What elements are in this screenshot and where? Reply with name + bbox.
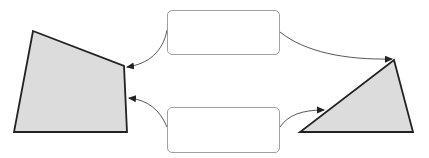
arrow-bottom-box-to-quad: [129, 98, 167, 127]
bottom-box: [167, 107, 280, 153]
arrow-top-box-to-triangle: [280, 32, 392, 59]
top-box: [167, 10, 280, 55]
left-quadrilateral-shape: [14, 31, 127, 132]
right-triangle-shape: [300, 60, 413, 132]
arrow-top-box-to-quad: [127, 30, 167, 67]
diagram-canvas: [0, 0, 429, 158]
